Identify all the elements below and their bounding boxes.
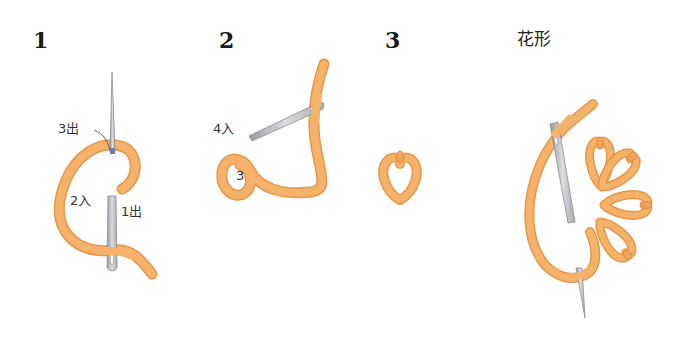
label-4-in: 4入: [213, 118, 234, 137]
step-1-illustration: [59, 72, 152, 274]
step-2-number: 2: [219, 27, 234, 53]
label-2-in: 2入: [70, 190, 91, 209]
label-3-out: 3出: [58, 118, 79, 137]
stitch-illustrations: [0, 0, 689, 346]
tack-stitch: [396, 151, 404, 163]
flower-title: 花形: [517, 25, 551, 50]
label-1-out: 1出: [121, 201, 142, 220]
step-1-number: 1: [33, 27, 48, 53]
step-3-number: 3: [385, 27, 400, 53]
flower-illustration: [529, 104, 652, 318]
step-3-illustration: [383, 151, 416, 200]
needle-top: [110, 72, 115, 152]
label-3: 3: [236, 168, 244, 183]
